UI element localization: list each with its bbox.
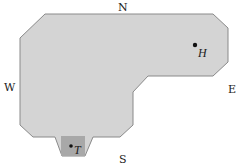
point-h-dot — [193, 43, 197, 47]
region-shape — [20, 14, 228, 156]
point-t-dot — [69, 144, 73, 148]
shaded-square — [61, 136, 85, 156]
compass-south: S — [119, 153, 127, 166]
point-h-label: H — [197, 46, 208, 60]
compass-east: E — [228, 83, 236, 96]
compass-west: W — [4, 81, 16, 94]
floor-plan-diagram: H T N S E W — [0, 0, 238, 168]
compass-north: N — [118, 1, 128, 14]
